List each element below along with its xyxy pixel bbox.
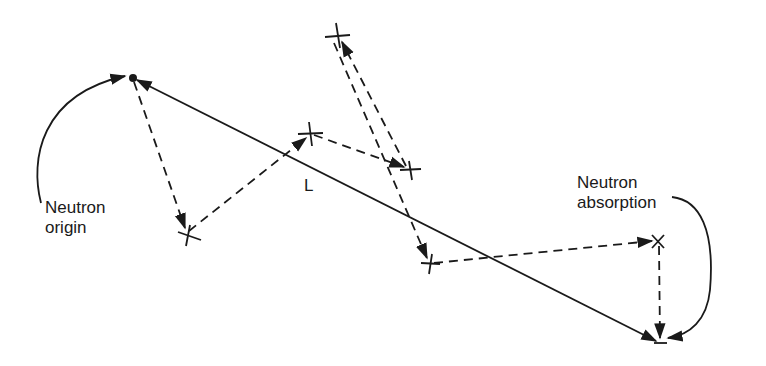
- collision-marker-4: [400, 161, 421, 180]
- absorption-label-line1: Neutron: [577, 173, 656, 193]
- origin-label-line1: Neutron: [45, 198, 105, 218]
- path-segment-2: [189, 138, 306, 231]
- path-segment-3: [314, 135, 404, 167]
- absorption-label: Neutron absorption: [577, 173, 656, 213]
- path-segment-1: [134, 82, 185, 228]
- collision-marker-3: [325, 23, 350, 48]
- collision-marker-1: [178, 225, 201, 246]
- path-segment-6: [434, 241, 652, 263]
- origin-callout-arrow: [37, 76, 125, 203]
- path-segment-7: [659, 246, 660, 338]
- origin-label-line2: origin: [45, 218, 105, 238]
- origin-label: Neutron origin: [45, 198, 105, 238]
- collision-marker-6: [652, 235, 664, 248]
- absorption-callout-arrow: [668, 197, 711, 338]
- origin-point: [129, 74, 137, 82]
- collision-marker-5: [421, 254, 440, 274]
- absorption-label-line2: absorption: [577, 193, 656, 213]
- path-segment-5: [334, 43, 427, 258]
- path-segment-4: [342, 42, 406, 166]
- distance-label: L: [302, 176, 315, 196]
